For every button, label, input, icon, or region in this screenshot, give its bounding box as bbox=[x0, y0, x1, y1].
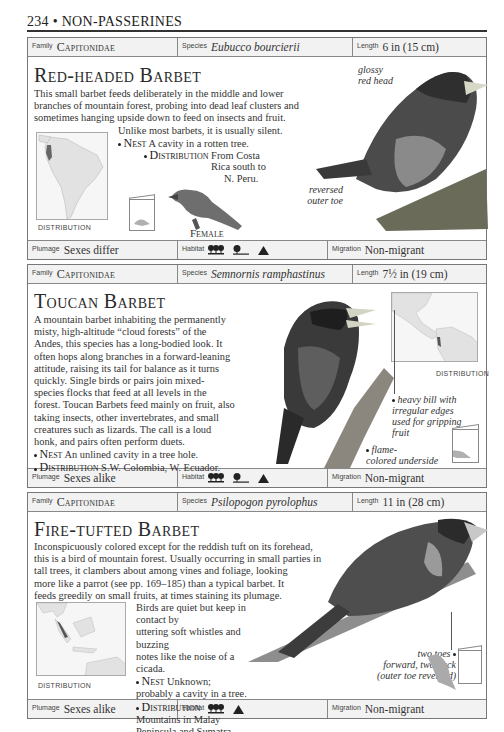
annotation-text: flame- bbox=[372, 444, 398, 455]
description-line: feeds greedily on small fruits, at times… bbox=[34, 590, 364, 602]
annotation-line: colored underside bbox=[366, 455, 438, 466]
bullet-icon bbox=[34, 454, 37, 457]
annotation-line: used for gripping bbox=[392, 416, 461, 427]
description-line: A mountain barbet inhabiting the permane… bbox=[34, 314, 259, 326]
species-description: Inconspicuously colored except for the r… bbox=[34, 541, 364, 602]
species-title: Toucan Barbet bbox=[34, 290, 165, 313]
species-cell: Species Semnornis ramphastinus bbox=[178, 265, 353, 283]
entry-footer-bar: Plumage Sexes alike Habitat Migration No… bbox=[28, 699, 486, 718]
habitat-label: Habitat bbox=[182, 704, 204, 711]
distribution-keyword: Distribution bbox=[150, 148, 209, 162]
description-line: creatures such as lizards. The call is a… bbox=[34, 424, 259, 436]
nest-value: An unlined cavity in a tree hole. bbox=[65, 449, 199, 460]
plumage-cell: Plumage Sexes differ bbox=[28, 241, 178, 259]
annotation-line: irregular edges bbox=[392, 405, 461, 416]
migration-cell: Migration Non-migrant bbox=[328, 700, 486, 718]
plumage-label: Plumage bbox=[32, 245, 60, 252]
species-label: Species bbox=[182, 42, 207, 49]
annotation-glossy-red-head: glossy red head bbox=[358, 64, 393, 86]
length-value: 7½ in (19 cm) bbox=[382, 268, 447, 280]
annotation-reversed-outer-toe: reversed outer toe bbox=[287, 184, 343, 206]
species-value: Semnornis ramphastinus bbox=[211, 268, 325, 280]
migration-cell: Migration Non-migrant bbox=[328, 469, 486, 487]
description-line: attitude, raising its tail for balance a… bbox=[34, 363, 259, 375]
family-cell: Family Capitonidae bbox=[28, 493, 178, 511]
distribution-value-line: Mountains in Malay bbox=[136, 714, 256, 726]
mountain-icon bbox=[258, 473, 269, 483]
book-icon bbox=[458, 650, 482, 684]
habitat-label: Habitat bbox=[182, 245, 204, 252]
distribution-caption: DISTRIBUTION bbox=[38, 224, 91, 231]
entry-footer-bar: Plumage Sexes differ Habitat Migration N… bbox=[28, 240, 486, 259]
length-value: 11 in (28 cm) bbox=[382, 496, 444, 508]
description-line: taking insects, other invertebrates, and… bbox=[34, 412, 259, 424]
family-value: Capitonidae bbox=[57, 40, 116, 55]
length-cell: Length 11 in (28 cm) bbox=[353, 493, 486, 511]
species-value: Eubucco bourcierii bbox=[211, 41, 300, 53]
bird-silhouette-icon bbox=[130, 200, 154, 230]
description-line: notes like the noise of a cicada. bbox=[136, 651, 256, 675]
distribution-caption: DISTRIBUTION bbox=[436, 370, 489, 377]
description-line: This small barbet feeds deliberately in … bbox=[34, 88, 334, 100]
species-label: Species bbox=[182, 269, 207, 276]
description-line: often hops along branches in a forward-l… bbox=[34, 351, 259, 363]
species-value: Psilopogon pyrolophus bbox=[211, 496, 318, 508]
annotation-line: outer toe bbox=[287, 195, 343, 206]
entry-content: Red-headed Barbet This small barbet feed… bbox=[28, 57, 486, 240]
entry-fire-tufted-barbet: Family Capitonidae Species Psilopogon py… bbox=[27, 492, 487, 719]
family-label: Family bbox=[32, 497, 53, 504]
bullet-icon bbox=[136, 707, 139, 710]
description-line: branches of mountain forest, probing int… bbox=[34, 100, 334, 112]
south-america-map-icon bbox=[37, 133, 108, 220]
annotation-flame-colored-underside: flame- colored underside bbox=[366, 444, 438, 466]
entry-content: Toucan Barbet A mountain barbet inhabiti… bbox=[28, 284, 486, 468]
plumage-value: Sexes alike bbox=[64, 703, 116, 715]
length-cell: Length 7½ in (19 cm) bbox=[353, 265, 486, 283]
nest-info: Nest Unknown; bbox=[136, 675, 256, 688]
family-label: Family bbox=[32, 42, 53, 49]
distribution-map-central-america bbox=[391, 292, 478, 362]
annotation-text: heavy bill with bbox=[398, 394, 457, 405]
annotation-line: reversed bbox=[287, 184, 343, 195]
entry-content: Fire-tufted Barbet Inconspicuously color… bbox=[28, 512, 486, 699]
annotation-line: red head bbox=[358, 75, 393, 86]
entry-toucan-barbet: Family Capitonidae Species Semnornis ram… bbox=[27, 264, 487, 488]
bird-silhouette-icon bbox=[428, 652, 458, 692]
entry-header-bar: Family Capitonidae Species Psilopogon py… bbox=[28, 493, 486, 512]
length-value: 6 in (15 cm) bbox=[382, 41, 439, 53]
description-line: species flocks that feed at all levels i… bbox=[34, 387, 259, 399]
bullet-icon bbox=[34, 468, 37, 471]
southeast-asia-map-icon bbox=[37, 603, 126, 676]
description-line: Andes, this species has a long-bodied lo… bbox=[34, 338, 259, 350]
annotation-line: heavy bill with bbox=[392, 394, 461, 405]
toucan-barbet-photo bbox=[254, 288, 414, 468]
species-description: A mountain barbet inhabiting the permane… bbox=[34, 314, 259, 475]
description-line: misty, high-altitude “cloud forests” of … bbox=[34, 326, 259, 338]
book-icon bbox=[452, 429, 479, 463]
migration-value: Non-migrant bbox=[365, 472, 424, 484]
nest-value: Unknown; bbox=[167, 676, 211, 687]
plumage-label: Plumage bbox=[32, 704, 60, 711]
description-continued: Birds are quiet but keep in contact by u… bbox=[136, 602, 256, 732]
bullet-icon bbox=[136, 681, 139, 684]
nest-keyword: Nest bbox=[40, 447, 63, 461]
species-title: Fire-tufted Barbet bbox=[34, 518, 199, 541]
distribution-info: Distribution S.W. Colombia, W. Ecuador. bbox=[34, 461, 259, 474]
migration-label: Migration bbox=[332, 704, 361, 711]
plumage-value: Sexes differ bbox=[64, 244, 119, 256]
bullet-icon bbox=[144, 155, 147, 158]
family-value: Capitonidae bbox=[57, 267, 116, 282]
species-cell: Species Eubucco bourcierii bbox=[178, 38, 353, 56]
migration-label: Migration bbox=[332, 245, 361, 252]
migration-value: Non-migrant bbox=[365, 703, 424, 715]
nest-keyword: Nest bbox=[142, 674, 165, 688]
red-headed-barbet-photo bbox=[316, 59, 488, 239]
description-line: forest. Toucan Barbets feed mainly on fr… bbox=[34, 399, 259, 411]
description-line: honk, and pairs often perform duets. bbox=[34, 436, 259, 448]
woodland-edge-icon bbox=[233, 245, 249, 255]
americas-map-icon bbox=[392, 293, 478, 362]
distribution-map-south-america bbox=[36, 132, 108, 220]
distribution-value: From Costa bbox=[211, 150, 260, 161]
entry-header-bar: Family Capitonidae Species Semnornis ram… bbox=[28, 265, 486, 284]
annotation-leader bbox=[451, 612, 452, 650]
